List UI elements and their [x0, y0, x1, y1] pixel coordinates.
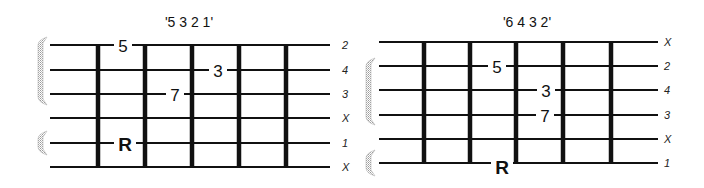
finger-label: 3 [664, 109, 671, 121]
bracket-1 [366, 150, 375, 176]
finger-label: 2 [663, 60, 670, 72]
finger-label: X [663, 36, 672, 48]
bracket-0 [366, 58, 375, 125]
finger-label: 1 [342, 137, 348, 149]
interval-note: 5 [118, 37, 127, 56]
chord-diagrams: '5 3 2 1'243X1X537R '6 4 3 2'X243X1537R [0, 0, 704, 188]
finger-label: X [341, 112, 350, 124]
interval-note: 7 [540, 107, 549, 126]
finger-label: X [663, 133, 672, 145]
interval-note: 3 [541, 82, 550, 101]
bracket-0 [38, 37, 47, 105]
finger-label: 4 [342, 64, 348, 76]
chord-diagram-right: '6 4 3 2'X243X1537R [366, 14, 672, 179]
interval-note: 7 [170, 86, 179, 105]
root-note: R [495, 157, 509, 178]
finger-label: 1 [664, 157, 670, 169]
chord-title: '6 4 3 2' [503, 14, 551, 30]
finger-label: 3 [342, 88, 349, 100]
finger-label: 2 [341, 39, 348, 51]
finger-label: 4 [664, 84, 670, 96]
root-note: R [118, 134, 132, 155]
finger-label: X [341, 161, 350, 173]
chord-title: '5 3 2 1' [165, 14, 213, 30]
interval-note: 5 [492, 58, 501, 77]
interval-note: 3 [213, 62, 222, 81]
bracket-1 [38, 131, 47, 155]
chord-diagram-left: '5 3 2 1'243X1X537R [38, 14, 350, 173]
